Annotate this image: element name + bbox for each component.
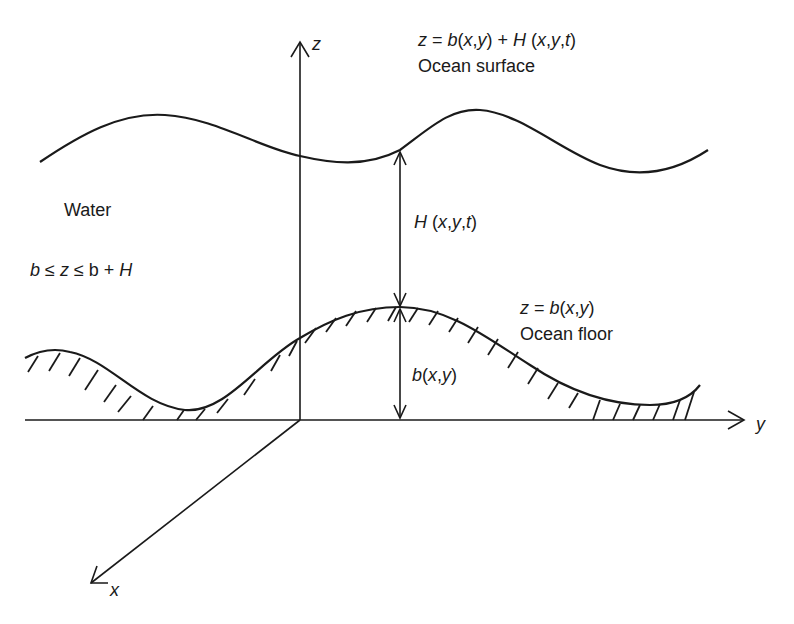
surface-name-label: Ocean surface	[418, 56, 535, 76]
x-axis	[91, 420, 300, 583]
height-label: b(x,y)	[412, 365, 457, 385]
ocean-floor-curve	[25, 307, 700, 410]
ocean-schematic-diagram: y z x	[0, 0, 794, 624]
water-constraint-label: b ≤ z ≤ b + H	[30, 260, 133, 280]
surface-equation: z = b(x,y) + H (x,y,t)	[417, 30, 576, 50]
depth-label: H (x,y,t)	[414, 212, 477, 232]
ocean-surface-curve	[40, 110, 708, 173]
y-axis-label: y	[754, 414, 766, 434]
depth-dimension-arrow	[394, 152, 406, 306]
height-dimension-arrow	[394, 309, 406, 418]
z-axis	[291, 42, 309, 420]
x-axis-label: x	[109, 580, 120, 600]
water-label: Water	[64, 200, 111, 220]
z-axis-label: z	[311, 34, 321, 54]
floor-equation: z = b(x,y)	[519, 298, 595, 318]
floor-name-label: Ocean floor	[520, 324, 613, 344]
